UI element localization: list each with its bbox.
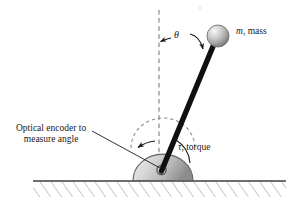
pendulum-figure: m, mass θ τ, torque Optical encoder to m… xyxy=(0,0,293,210)
mass-label: m, mass xyxy=(236,26,267,37)
encoder-rotation-arrow xyxy=(138,141,155,148)
mass-text: , mass xyxy=(243,26,267,36)
encoder-label-line1: Optical encoder to xyxy=(16,123,86,133)
theta-arrow-to-rod xyxy=(190,34,203,49)
torque-label: τ, torque xyxy=(178,142,210,153)
torque-text: , torque xyxy=(181,142,210,152)
ground-hatching xyxy=(33,182,286,198)
encoder-label: Optical encoder to measure angle xyxy=(16,123,86,145)
encoder-label-line2: measure angle xyxy=(16,134,86,145)
mass-symbol: m xyxy=(236,26,243,36)
scan-speck-artifact xyxy=(199,7,201,9)
encoder-pointer-line xyxy=(92,131,160,168)
theta-arrow-to-vertical xyxy=(161,38,172,42)
theta-label: θ xyxy=(174,29,179,41)
pendulum-mass-sphere xyxy=(207,25,229,47)
